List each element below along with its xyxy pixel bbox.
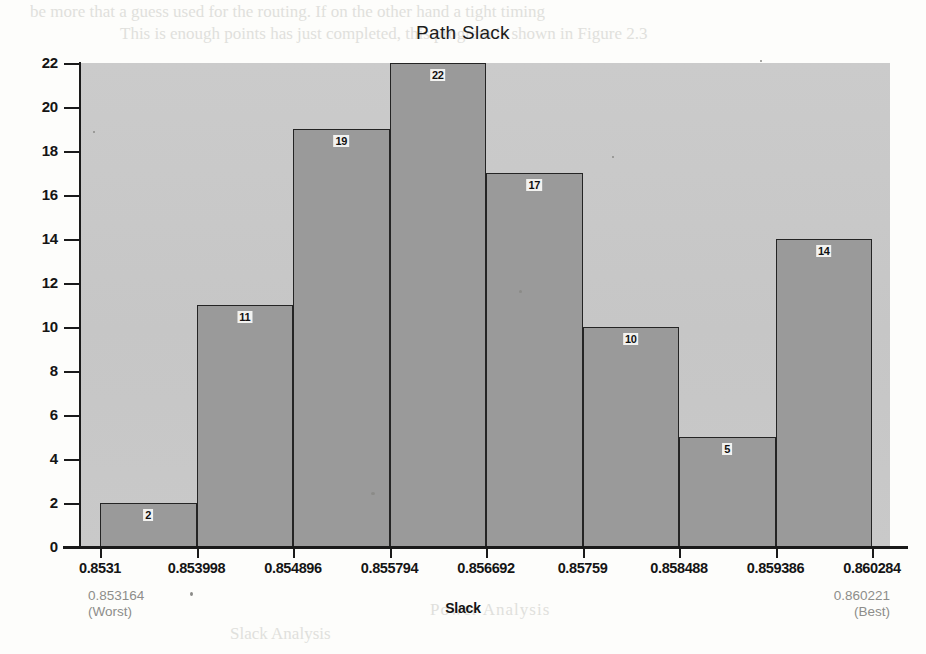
- x-tick-label: 0.859386: [747, 560, 804, 576]
- scan-speckle: [190, 592, 193, 596]
- y-tick-label: 10: [0, 318, 58, 335]
- y-tick-label: 22: [0, 54, 58, 71]
- x-tick-label: 0.853998: [168, 560, 225, 576]
- scan-speckle: [612, 156, 614, 158]
- bar-value-label: 5: [722, 443, 732, 455]
- y-tick: [64, 107, 80, 109]
- x-tick: [100, 547, 102, 558]
- x-tick: [486, 547, 488, 558]
- scan-speckle: [93, 131, 95, 133]
- y-axis-line: [79, 62, 81, 548]
- y-tick: [64, 63, 80, 65]
- x-tick-label: 0.860284: [843, 560, 900, 576]
- scan-speckle: [519, 290, 522, 293]
- y-tick: [64, 415, 80, 417]
- chart-title: Path Slack: [0, 22, 926, 44]
- plot-area: 21119221710514: [80, 63, 890, 547]
- y-tick-label: 8: [0, 362, 58, 379]
- x-axis-title: Slack: [0, 600, 926, 616]
- y-tick-label: 14: [0, 230, 58, 247]
- histogram-bar: 19: [293, 129, 390, 547]
- bar-value-label: 2: [143, 509, 153, 521]
- y-tick-label: 2: [0, 494, 58, 511]
- y-tick-label: 4: [0, 450, 58, 467]
- scan-speckle: [760, 60, 762, 62]
- x-tick: [197, 547, 199, 558]
- histogram-bar: 5: [679, 437, 776, 547]
- x-tick-label: 0.855794: [361, 560, 418, 576]
- x-tick-label: 0.854896: [264, 560, 321, 576]
- x-tick: [872, 547, 874, 558]
- bar-value-label: 14: [816, 245, 832, 257]
- y-tick: [64, 503, 80, 505]
- y-tick: [64, 327, 80, 329]
- x-tick: [293, 547, 295, 558]
- x-tick-label: 0.85759: [558, 560, 608, 576]
- histogram-bar: 14: [776, 239, 873, 547]
- histogram-bar: 11: [197, 305, 294, 547]
- bar-value-label: 22: [430, 69, 446, 81]
- x-tick-label: 0.858488: [650, 560, 707, 576]
- y-tick: [64, 459, 80, 461]
- y-tick: [64, 239, 80, 241]
- scan-speckle: [371, 492, 375, 495]
- x-tick-label: 0.856692: [457, 560, 514, 576]
- x-tick: [583, 547, 585, 558]
- y-tick-label: 16: [0, 186, 58, 203]
- bar-value-label: 11: [237, 311, 252, 323]
- histogram-bar: 17: [486, 173, 583, 547]
- y-tick-label: 20: [0, 98, 58, 115]
- y-tick-label: 12: [0, 274, 58, 291]
- histogram-bar: 22: [390, 63, 487, 547]
- y-tick: [64, 547, 80, 549]
- y-tick-label: 0: [0, 538, 58, 555]
- bar-value-label: 17: [526, 179, 542, 191]
- histogram-chart: Path Slack 21119221710514 02468101214161…: [0, 0, 926, 654]
- x-tick: [390, 547, 392, 558]
- x-tick: [776, 547, 778, 558]
- y-tick: [64, 283, 80, 285]
- histogram-bar: 2: [100, 503, 197, 547]
- bars-container: 21119221710514: [80, 63, 890, 547]
- y-tick: [64, 371, 80, 373]
- y-tick: [64, 195, 80, 197]
- x-tick-label: 0.8531: [79, 560, 121, 576]
- x-tick: [679, 547, 681, 558]
- y-tick-label: 18: [0, 142, 58, 159]
- y-tick: [64, 151, 80, 153]
- y-tick-label: 6: [0, 406, 58, 423]
- bar-value-label: 10: [623, 333, 639, 345]
- histogram-bar: 10: [583, 327, 680, 547]
- bar-value-label: 19: [333, 135, 349, 147]
